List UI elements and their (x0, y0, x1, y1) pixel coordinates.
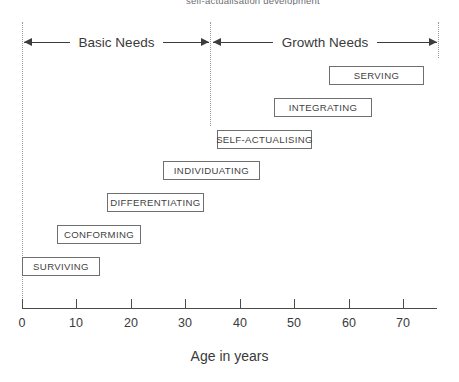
x-axis-tick (131, 299, 132, 308)
x-axis-tick (185, 299, 186, 308)
stage-box-differentiating: DIFFERENTIATING (107, 193, 204, 212)
stage-label: INDIVIDUATING (174, 165, 249, 176)
basic-needs-right-arrow-icon (163, 42, 209, 43)
growth-needs-label: Growth Needs (273, 35, 377, 50)
growth-needs-band: Growth Needs (213, 33, 437, 51)
stage-box-serving: SERVING (329, 66, 424, 85)
middle-divider-line (210, 22, 211, 126)
stage-label: INTEGRATING (289, 102, 358, 113)
growth-needs-right-arrow-icon (377, 42, 437, 43)
stage-label: CONFORMING (64, 229, 134, 240)
basic-needs-band: Basic Needs (24, 33, 209, 51)
x-axis-tick (349, 299, 350, 308)
x-axis-tick-label: 60 (342, 316, 356, 330)
stage-box-self-actualising: SELF-ACTUALISING (217, 130, 312, 149)
x-axis-tick (76, 299, 77, 308)
stage-label: SERVING (354, 70, 399, 81)
cut-off-heading-text: self-actualisation development (186, 0, 454, 5)
growth-needs-left-arrow-icon (213, 42, 273, 43)
x-axis-tick (240, 299, 241, 308)
basic-needs-label: Basic Needs (70, 35, 164, 50)
x-axis-tick (22, 299, 23, 308)
stage-label: SELF-ACTUALISING (216, 134, 313, 145)
x-axis-tick-label: 70 (396, 316, 410, 330)
x-axis-tick-label: 50 (287, 316, 301, 330)
basic-needs-left-arrow-icon (24, 42, 70, 43)
x-axis-tick-label: 20 (124, 316, 138, 330)
self-actualisation-timeline-figure: self-actualisation development Basic Nee… (0, 0, 459, 382)
x-axis-tick (294, 299, 295, 308)
stage-label: SURVIVING (33, 261, 89, 272)
stage-box-individuating: INDIVIDUATING (163, 161, 260, 180)
x-axis-tick-label: 30 (178, 316, 192, 330)
stage-box-integrating: INTEGRATING (274, 98, 372, 117)
x-axis-tick-label: 10 (69, 316, 83, 330)
stage-label: DIFFERENTIATING (110, 197, 200, 208)
x-axis-tick-label: 40 (233, 316, 247, 330)
x-axis-title: Age in years (0, 348, 459, 364)
stage-box-surviving: SURVIVING (22, 257, 100, 276)
x-axis-tick (403, 299, 404, 308)
x-axis-tick-label: 0 (19, 316, 26, 330)
stage-box-conforming: CONFORMING (57, 225, 141, 244)
x-axis-line (22, 308, 437, 309)
right-divider-line (438, 22, 439, 58)
